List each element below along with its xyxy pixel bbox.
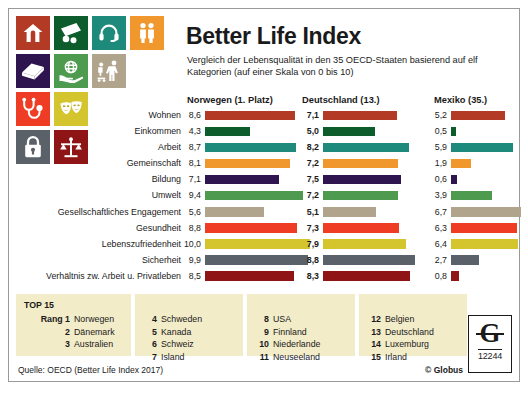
category-label: Gesellschaftliches Engagement — [58, 207, 181, 217]
top15-rank: 4 — [143, 313, 157, 326]
value-label: 5,0 — [299, 126, 319, 136]
value-bar — [451, 143, 513, 153]
value-label: 7,2 — [299, 190, 319, 200]
chart-row: Einkommen4,35,00,5 — [9, 124, 521, 140]
value-bar — [205, 207, 264, 217]
top15-rank: 3 — [24, 338, 70, 351]
top15-item: 12Belgien — [367, 313, 459, 326]
value-bar — [205, 159, 290, 169]
headset-icon — [92, 16, 126, 50]
two-people-icon — [130, 16, 164, 50]
chart-row: Gesellschaftliches Engagement5,65,16,7 — [9, 205, 521, 221]
top15-item: 11Neuseeland — [255, 351, 347, 364]
top15-rank: Rang 1 — [24, 313, 70, 326]
top15-country: Niederlande — [273, 338, 320, 351]
value-bar — [451, 175, 457, 185]
category-label: Gemeinschaft — [127, 158, 181, 168]
globus-logo-bar — [476, 333, 503, 335]
top15-rank: 11 — [255, 351, 269, 364]
chart-row: Gemeinschaft8,17,21,9 — [9, 156, 521, 172]
copyright-label: © Globus — [425, 365, 463, 375]
top15-country: USA — [273, 313, 291, 326]
top15-country: Luxemburg — [385, 338, 429, 351]
series-header-mexiko: Mexiko (35.) — [434, 95, 487, 105]
value-label: 2,7 — [427, 255, 447, 265]
value-bar — [323, 191, 398, 201]
top15-country: Irland — [385, 351, 407, 364]
globus-logo-number: 12244 — [478, 349, 502, 361]
top15-item: 5Kanada — [143, 326, 235, 339]
top15-heading-spacer — [367, 300, 459, 310]
category-label: Sicherheit — [142, 255, 181, 265]
value-label: 7,3 — [299, 223, 319, 233]
value-label: 8,1 — [181, 158, 201, 168]
value-label: 7,9 — [299, 239, 319, 249]
value-bar — [205, 239, 310, 249]
value-label: 7,1 — [299, 110, 319, 120]
value-bar — [323, 223, 399, 233]
category-label: Umwelt — [152, 190, 181, 200]
top15-rank: 14 — [367, 338, 381, 351]
value-label: 6,4 — [427, 239, 447, 249]
top15-country: Kanada — [161, 326, 191, 339]
value-bar — [205, 255, 308, 265]
value-label: 6,7 — [427, 207, 447, 217]
top15-rank: 10 — [255, 338, 269, 351]
house-icon — [16, 16, 50, 50]
top15-item: 6Schweiz — [143, 338, 235, 351]
money-icon — [54, 16, 88, 50]
value-bar — [323, 127, 375, 137]
category-label: Lebenszufriedenheit — [102, 239, 181, 249]
value-bar — [451, 271, 459, 281]
category-label: Einkommen — [135, 126, 181, 136]
book-icon — [16, 54, 50, 88]
source-note: Quelle: OECD (Better Life Index 2017) — [18, 365, 163, 375]
value-bar — [451, 207, 521, 217]
volunteering-icon — [92, 54, 126, 88]
top15-heading-spacer — [143, 300, 235, 310]
value-label: 9,9 — [181, 255, 201, 265]
top15-item: 2Dänemark — [24, 326, 123, 339]
series-header-deutschland: Deutschland (13.) — [302, 95, 380, 105]
chart-row: Sicherheit9,98,82,7 — [9, 253, 521, 269]
top15-column: 8USA9Finnland10Niederlande11Neuseeland — [247, 294, 355, 356]
value-bar — [451, 111, 505, 121]
bar-chart: Wohnen8,67,15,2Einkommen4,35,00,5Arbeit8… — [9, 108, 521, 285]
value-bar — [323, 175, 401, 185]
top15-column: 12Belgien13Deutschland14Luxemburg15Irlan… — [359, 294, 467, 356]
page-subtitle: Vergleich der Lebensqualität in den 35 O… — [187, 54, 517, 78]
top15-item: 7Island — [143, 351, 235, 364]
value-bar — [323, 239, 406, 249]
value-label: 8,3 — [299, 271, 319, 281]
value-label: 5,2 — [427, 110, 447, 120]
chart-row: Gesundheit8,87,36,3 — [9, 221, 521, 237]
top15-country: Island — [161, 351, 184, 364]
value-label: 3,9 — [427, 190, 447, 200]
value-label: 0,8 — [427, 271, 447, 281]
chart-row: Umwelt9,47,23,9 — [9, 188, 521, 204]
top15-item: 3Australien — [24, 338, 123, 351]
top15-item: 8USA — [255, 313, 347, 326]
value-bar — [323, 143, 409, 153]
category-label: Verhältnis zw. Arbeit u. Privatleben — [46, 271, 181, 281]
value-bar — [323, 207, 376, 217]
value-bar — [451, 255, 479, 265]
value-bar — [323, 111, 397, 121]
infographic-root: Better Life Index Vergleich der Lebensqu… — [0, 0, 528, 395]
top15-rank: 2 — [24, 326, 70, 339]
value-label: 7,5 — [299, 174, 319, 184]
value-bar — [451, 191, 492, 201]
top15-country: Norwegen — [74, 313, 114, 326]
top15-rank: 6 — [143, 338, 157, 351]
page-title: Better Life Index — [186, 23, 361, 50]
top15-heading-spacer — [255, 300, 347, 310]
top15-rank: 7 — [143, 351, 157, 364]
globus-logo-letter: G — [479, 320, 500, 346]
value-bar — [451, 127, 456, 137]
value-bar — [205, 175, 279, 185]
value-bar — [451, 239, 518, 249]
top15-item: 15Irland — [367, 351, 459, 364]
value-bar — [205, 127, 250, 137]
chart-row: Wohnen8,67,15,2 — [9, 108, 521, 124]
value-bar — [205, 143, 296, 153]
